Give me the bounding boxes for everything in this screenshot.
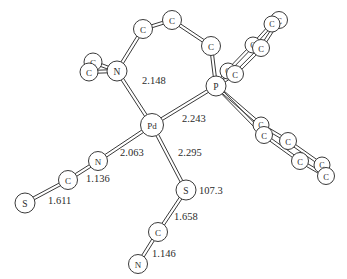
atom-c_br3: C [202, 37, 221, 56]
atom-ph2_c6: C [318, 168, 335, 185]
atom-ph2_c4: C [292, 153, 309, 170]
atom-label-c_ncs: C [65, 176, 71, 186]
bond-c_br3-p [211, 54, 217, 77]
atom-ph1_c2: C [227, 66, 244, 83]
atom-label-ph1_c6: C [269, 20, 274, 29]
c-n-scn-distance: 1.146 [152, 248, 176, 259]
pd-s-c-angle: 107.3 [199, 185, 223, 196]
atom-pd: Pd [141, 114, 164, 137]
molecule-canvas: PdPNCCCCCCCCCCCCCCCCCNCSSCN 2.1482.2432.… [0, 0, 347, 279]
atom-label-ph2_c3: C [285, 137, 291, 147]
atom-c_scn: C [149, 223, 168, 242]
atom-p: P [206, 76, 226, 96]
atom-label-c_me2: C [86, 68, 92, 78]
n-c-ncs-distance: 1.136 [86, 173, 110, 184]
atom-ph1_c4: C [253, 40, 270, 57]
atom-label-p: P [213, 82, 218, 92]
atom-ph2_c3: C [280, 133, 297, 150]
c-s-ncs-distance: 1.611 [48, 195, 71, 206]
atom-label-c_scn: C [155, 228, 161, 238]
molecular-structure-figure: PdPNCCCCCCCCCCCCCCCCCNCSSCN 2.1482.2432.… [0, 0, 347, 279]
atom-c_me2: C [80, 63, 98, 81]
atom-layer: PdPNCCCCCCCCCCCCCCCCCNCSSCN [15, 11, 335, 274]
atom-ph1_c6: C [264, 16, 280, 32]
atom-label-ph2_c2: C [261, 131, 267, 141]
atom-c_ncs: C [59, 171, 78, 190]
atom-s_ncs: S [15, 193, 35, 213]
atom-c_br1: C [134, 20, 153, 39]
atom-s_scn: S [176, 180, 196, 200]
atom-label-s_ncs: S [22, 199, 27, 209]
atom-label-n_amine: N [114, 67, 121, 77]
atom-n_amine: N [107, 61, 127, 81]
atom-label-ph1_c4: C [258, 44, 264, 54]
pd-s-scn-distance: 2.295 [178, 147, 202, 158]
pd-n-amine-distance: 2.148 [142, 75, 166, 86]
bond-c_br2-c_br3 [178, 23, 205, 42]
pd-n-ncs-distance: 2.063 [120, 147, 144, 158]
atom-label-ph1_c2: C [232, 70, 238, 80]
atom-label-c_br2: C [169, 16, 175, 26]
bond-n_amine-c_br1 [120, 35, 139, 64]
atom-label-ph2_c4: C [297, 157, 303, 167]
s-c-scn-distance: 1.658 [174, 211, 198, 222]
atom-label-ph2_c6: C [323, 172, 329, 182]
atom-n_scn: N [129, 255, 148, 274]
bond-n_amine-c_me2 [97, 70, 108, 73]
atom-label-n_scn: N [135, 260, 142, 270]
pd-p-distance: 2.243 [182, 113, 206, 124]
atom-c_br2: C [163, 11, 182, 30]
atom-label-c_br3: C [208, 42, 214, 52]
atom-label-n_ncs: N [95, 157, 102, 167]
bond-pd-s_scn [156, 134, 184, 183]
atom-n_ncs: N [89, 152, 108, 171]
atom-ph2_c2: C [256, 127, 273, 144]
atom-label-pd: Pd [147, 121, 157, 131]
atom-label-s_scn: S [183, 186, 188, 196]
atom-label-c_br1: C [140, 25, 146, 35]
